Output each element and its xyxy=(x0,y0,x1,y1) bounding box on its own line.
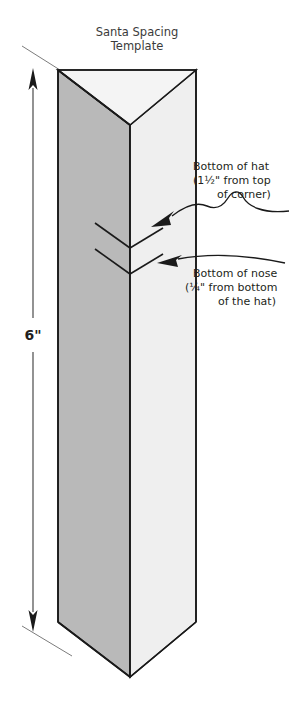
title-leader-line xyxy=(22,46,60,70)
dimension-label: 6" xyxy=(24,327,41,343)
santa-spacing-template-diagram: Santa Spacing Template 6" xyxy=(0,0,297,707)
dimension-arrow-down xyxy=(29,610,38,632)
triangular-prism xyxy=(58,70,196,677)
prism-right-face xyxy=(130,70,196,677)
height-dimension: 6" xyxy=(24,68,41,632)
callout-hat-line-1: Bottom of hat xyxy=(193,160,270,173)
figure-title-line-2: Template xyxy=(110,39,163,53)
prism-left-face xyxy=(58,70,130,677)
callout-nose-line-1: Bottom of nose xyxy=(193,267,277,280)
callout-nose-line-2: (¼" from bottom xyxy=(185,281,277,294)
figure-title: Santa Spacing Template xyxy=(96,25,179,53)
dimension-arrow-up xyxy=(29,68,38,90)
figure-title-line-1: Santa Spacing xyxy=(96,25,179,39)
bottom-leader-line xyxy=(22,626,72,656)
callout-nose-line-3: of the hat) xyxy=(218,295,276,308)
callout-hat-line-2: (1½" from top xyxy=(193,174,271,187)
